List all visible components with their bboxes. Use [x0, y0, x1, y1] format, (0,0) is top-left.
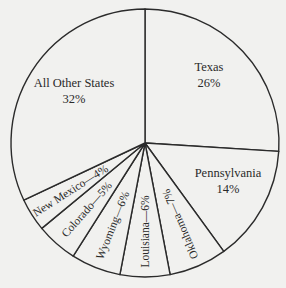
slice-label-louisiana: Louisiana—6% [139, 195, 151, 268]
pie-chart: Texas26%Pennsylvania14%Oklahoma—7%Louisi… [0, 0, 286, 288]
